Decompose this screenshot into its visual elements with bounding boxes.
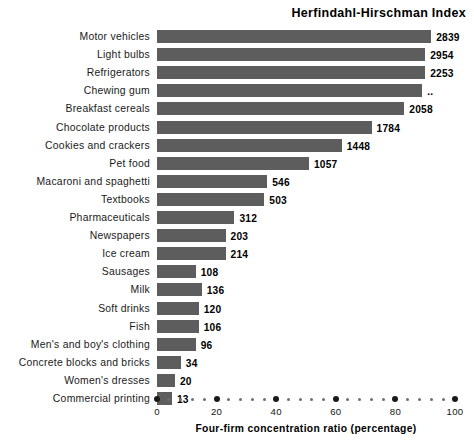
bar-row: Concrete blocks and bricks34 [0,354,474,372]
axis-tick-dot-major [273,396,279,402]
axis-tick-dot-minor [382,398,385,401]
bar [157,157,309,170]
axis-tick-dot-minor [227,398,230,401]
bar-value-label: 136 [207,285,225,296]
axis-tick-dot-minor [299,398,302,401]
bar-row: Light bulbs2954 [0,46,474,64]
bar-value-label: 2839 [436,32,459,43]
axis-tick-dot-minor [251,398,254,401]
bar-value-label: 108 [201,267,219,278]
axis-tick-label: 80 [390,406,401,417]
bar-value-label: 214 [231,249,249,260]
axis-tick-label: 100 [447,406,464,417]
axis-tick-dot-minor [430,398,433,401]
category-label: Textbooks [0,194,150,206]
category-label: Pharmaceuticals [0,212,150,224]
category-label: Fish [0,321,150,333]
bar-value-label: 546 [272,176,290,187]
bar-value-label: 120 [204,303,222,314]
axis-tick-dot-minor [346,398,349,401]
bar-row: Textbooks503 [0,191,474,209]
bar-row: Chewing gum.. [0,82,474,100]
category-label: Light bulbs [0,49,150,61]
bar-value-label: 1057 [314,158,337,169]
category-label: Refrigerators [0,67,150,79]
bar [157,66,425,79]
axis-tick-dot-minor [358,398,361,401]
bar-row: Soft drinks120 [0,300,474,318]
axis-tick-dot-minor [239,398,242,401]
bar-row: Fish106 [0,318,474,336]
bar-row: Pharmaceuticals312 [0,209,474,227]
bar [157,229,226,242]
axis-tick-dot-minor [322,398,325,401]
bar [157,84,422,97]
bar-row: Milk136 [0,281,474,299]
bar-value-label: 312 [239,213,257,224]
bar-row: Cookies and crackers1448 [0,137,474,155]
axis-tick-label: 20 [211,406,222,417]
category-label: Milk [0,284,150,296]
x-axis: Four-firm concentration ratio (percentag… [0,396,474,447]
axis-tick-dot-major [333,396,339,402]
category-label: Cookies and crackers [0,140,150,152]
axis-tick-label: 60 [330,406,341,417]
bar-value-label: 96 [201,339,213,350]
axis-tick-dot-major [214,396,220,402]
axis-tick-dot-major [452,396,458,402]
axis-tick-dot-minor [310,398,313,401]
axis-tick-dot-minor [191,398,194,401]
chart-title-hhi: Herfindahl-Hirschman Index [292,6,467,20]
bar [157,175,267,188]
bar [157,211,234,224]
bar-row: Macaroni and spaghetti546 [0,173,474,191]
bar-row: Sausages108 [0,263,474,281]
bar-value-label: .. [427,86,433,97]
axis-tick-dot-minor [203,398,206,401]
axis-tick-dot-minor [442,398,445,401]
bar-value-label: 2954 [430,50,453,61]
bar-value-label: 106 [204,321,222,332]
bar [157,30,431,43]
bar [157,102,404,115]
bar-row: Men's and boy's clothing96 [0,336,474,354]
bar [157,356,181,369]
bar-row: Chocolate products1784 [0,119,474,137]
axis-tick-dot-minor [418,398,421,401]
axis-tick-dot-major [154,396,160,402]
bar [157,139,342,152]
bar-value-label: 1784 [377,122,400,133]
bar-value-label: 34 [186,357,198,368]
category-label: Soft drinks [0,303,150,315]
bar [157,338,196,351]
axis-tick-dot-minor [263,398,266,401]
axis-tick-dot-minor [287,398,290,401]
bar-row: Motor vehicles2839 [0,28,474,46]
category-label: Women's dresses [0,375,150,387]
axis-tick-dot-minor [179,398,182,401]
bar-row: Women's dresses20 [0,372,474,390]
category-label: Men's and boy's clothing [0,339,150,351]
bar [157,265,196,278]
bar-row: Ice cream214 [0,245,474,263]
bar [157,374,175,387]
bar [157,283,202,296]
bar [157,320,199,333]
category-label: Chewing gum [0,85,150,97]
category-label: Pet food [0,158,150,170]
concentration-chart: Herfindahl-Hirschman Index Motor vehicle… [0,0,474,447]
bar [157,121,372,134]
category-label: Ice cream [0,248,150,260]
category-label: Macaroni and spaghetti [0,176,150,188]
bar-value-label: 20 [180,375,192,386]
axis-tick-label: 0 [154,406,160,417]
category-label: Sausages [0,266,150,278]
axis-tick-label: 40 [271,406,282,417]
axis-tick-dot-minor [406,398,409,401]
category-label: Newspapers [0,230,150,242]
bar-value-label: 2253 [430,68,453,79]
axis-tick-dot-minor [370,398,373,401]
bar-row: Breakfast cereals2058 [0,100,474,118]
bar-value-label: 2058 [409,104,432,115]
category-label: Concrete blocks and bricks [0,357,150,369]
